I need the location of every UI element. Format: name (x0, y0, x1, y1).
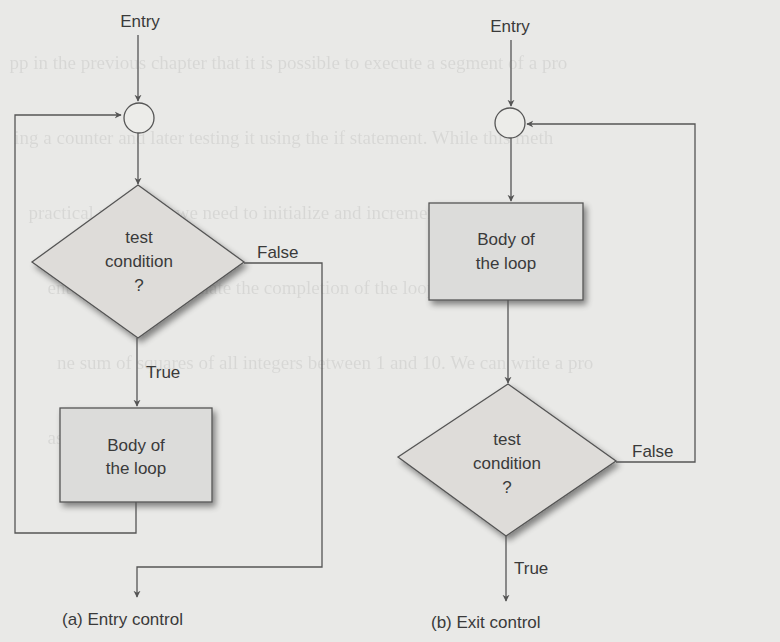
loop-control-diagrams: Entry test condition ? False True Body o… (0, 0, 780, 642)
condition-line: test (493, 430, 521, 449)
body-line: the loop (476, 254, 537, 273)
exit-control-labels: Entry Body of the loop test condition ? … (431, 17, 674, 632)
true-label: True (514, 559, 548, 578)
caption: (a) Entry control (62, 610, 183, 629)
exit-control-diagram (398, 40, 695, 601)
condition-line: condition (105, 252, 173, 271)
body-line: Body of (477, 230, 535, 249)
condition-line: condition (473, 454, 541, 473)
junction-circle (124, 103, 154, 133)
loop-body-box (429, 203, 583, 300)
condition-line: ? (502, 478, 511, 497)
caption: (b) Exit control (431, 613, 541, 632)
junction-circle (495, 108, 525, 138)
body-line: the loop (106, 459, 167, 478)
false-label: False (257, 243, 299, 262)
condition-line: ? (134, 276, 143, 295)
entry-control-labels: Entry test condition ? False True Body o… (62, 12, 299, 629)
true-label: True (146, 363, 180, 382)
entry-label: Entry (490, 17, 530, 36)
entry-control-diagram (15, 35, 322, 597)
entry-label: Entry (120, 12, 160, 31)
loop-body-box (60, 408, 212, 502)
condition-line: test (125, 228, 153, 247)
false-label: False (632, 442, 674, 461)
body-line: Body of (107, 436, 165, 455)
